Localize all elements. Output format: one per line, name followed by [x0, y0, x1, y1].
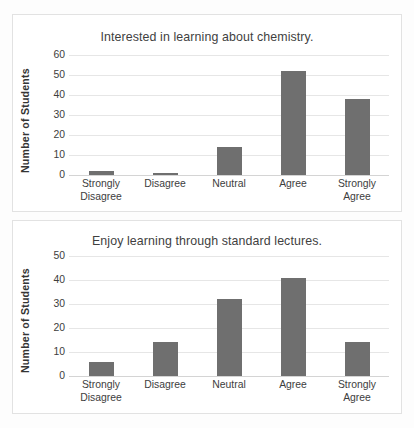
- x-tick-label: Strongly Disagree: [69, 177, 133, 204]
- bar-slot: [133, 55, 197, 175]
- bar: [281, 278, 306, 376]
- bar: [89, 362, 114, 376]
- bar: [217, 147, 242, 175]
- y-tick-label: 30: [53, 110, 65, 120]
- bar: [281, 71, 306, 175]
- y-tick-label: 30: [53, 299, 65, 309]
- bar-slot: [197, 55, 261, 175]
- bar-slot: [325, 256, 389, 376]
- y-tick-label: 10: [53, 347, 65, 357]
- bar: [89, 171, 114, 175]
- x-tick-label: Agree: [261, 378, 325, 405]
- y-tick-label: 0: [59, 371, 65, 381]
- x-tick-label: Neutral: [197, 177, 261, 204]
- chart-title-lectures: Enjoy learning through standard lectures…: [13, 234, 401, 248]
- chart-panel-lectures: Enjoy learning through standard lectures…: [12, 220, 402, 414]
- chart-panel-interest: Interested in learning about chemistry. …: [12, 14, 402, 212]
- bar-slot: [325, 55, 389, 175]
- y-tick-label: 0: [59, 170, 65, 180]
- chart-title-interest: Interested in learning about chemistry.: [13, 30, 401, 44]
- y-axis-label-interest: Number of Students: [19, 55, 31, 173]
- bar: [345, 99, 370, 175]
- x-tick-label: Neutral: [197, 378, 261, 405]
- y-tick-label: 50: [53, 251, 65, 261]
- bar-series-lectures: [69, 256, 389, 376]
- plot-area-lectures: [69, 256, 389, 376]
- x-tick-label: Strongly Agree: [325, 177, 389, 204]
- y-tick-label: 20: [53, 130, 65, 140]
- x-tick-label: Agree: [261, 177, 325, 204]
- y-tick-label: 10: [53, 150, 65, 160]
- y-tick-label: 60: [53, 50, 65, 60]
- y-tick-label: 40: [53, 275, 65, 285]
- x-axis-labels-interest: Strongly DisagreeDisagreeNeutralAgreeStr…: [69, 177, 389, 204]
- bar-slot: [197, 256, 261, 376]
- y-axis-ticks-interest: 0102030405060: [35, 55, 65, 175]
- bar-slot: [133, 256, 197, 376]
- y-tick-label: 40: [53, 90, 65, 100]
- axis-line-zero: [69, 175, 389, 176]
- x-tick-label: Strongly Disagree: [69, 378, 133, 405]
- bar: [153, 342, 178, 376]
- plot-area-interest: [69, 55, 389, 175]
- bar: [153, 173, 178, 175]
- axis-line-zero: [69, 376, 389, 377]
- bar-series-interest: [69, 55, 389, 175]
- x-tick-label: Disagree: [133, 177, 197, 204]
- y-tick-label: 50: [53, 70, 65, 80]
- bar-slot: [261, 55, 325, 175]
- x-tick-label: Strongly Agree: [325, 378, 389, 405]
- bar-slot: [69, 55, 133, 175]
- x-axis-labels-lectures: Strongly DisagreeDisagreeNeutralAgreeStr…: [69, 378, 389, 405]
- y-tick-label: 20: [53, 323, 65, 333]
- bar: [217, 299, 242, 376]
- bar-slot: [261, 256, 325, 376]
- figure-page: Interested in learning about chemistry. …: [0, 0, 414, 428]
- y-axis-ticks-lectures: 01020304050: [35, 256, 65, 376]
- bar-slot: [69, 256, 133, 376]
- x-tick-label: Disagree: [133, 378, 197, 405]
- bar: [345, 342, 370, 376]
- y-axis-label-lectures: Number of Students: [19, 255, 31, 373]
